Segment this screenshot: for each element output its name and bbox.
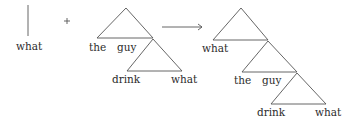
node-label-what: what [16,40,43,52]
result-triangle-level2 [242,41,297,72]
tree-triangle-top [97,8,153,38]
leaf-the: the [89,41,106,53]
merge-diagram: what the guy drink what what the guy dri… [0,0,355,125]
leaf-drink: drink [112,73,141,85]
plus-icon [64,18,70,24]
result-leaf-the: the [234,74,251,86]
result-leaf-guy: guy [262,74,281,86]
result-leaf-what-top: what [202,42,229,54]
leaf-what: what [171,73,198,85]
input-tree: the guy drink what [89,8,198,85]
result-tree: what the guy drink what [202,8,342,118]
result-leaf-what-bottom: what [315,106,342,118]
result-leaf-drink: drink [257,106,286,118]
operand-what-node: what [16,5,43,52]
right-arrow-icon [162,24,202,30]
leaf-guy: guy [117,41,136,53]
result-triangle-level1 [213,8,268,40]
